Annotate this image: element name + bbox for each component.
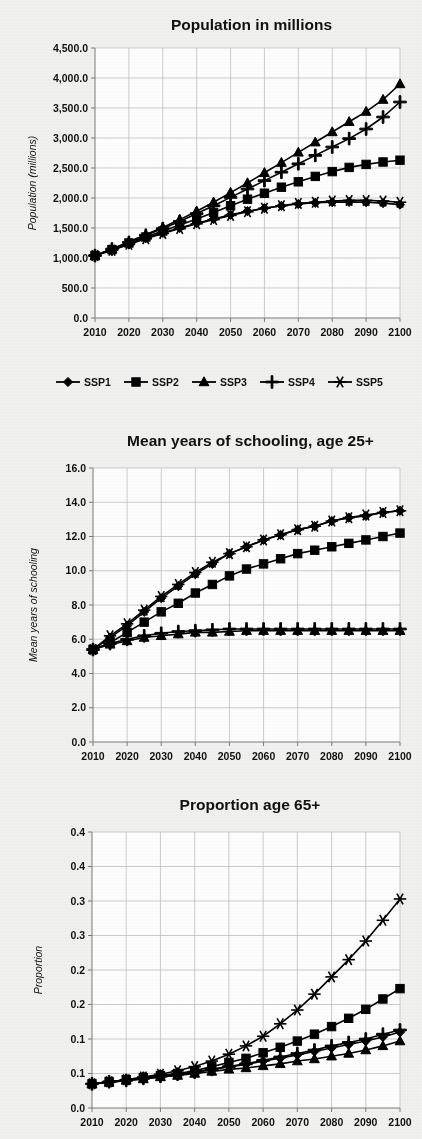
chart-title: Population in millions (171, 16, 332, 33)
x-tick-label: 2070 (286, 1116, 310, 1128)
y-tick-label: 4.0 (71, 667, 86, 679)
y-tick-label: 0.2 (70, 964, 85, 976)
y-tick-label: 8.0 (71, 599, 86, 611)
x-tick-label: 2050 (219, 326, 243, 338)
proportion65-chart-svg: Proportion age 65+0.00.10.10.20.20.30.30… (0, 770, 422, 1139)
x-tick-label: 2020 (115, 750, 139, 762)
y-tick-label: 1,000.0 (53, 252, 88, 264)
y-tick-label: 0.0 (70, 1102, 85, 1114)
y-tick-label: 0.0 (73, 312, 88, 324)
legend-label: SSP3 (220, 376, 247, 388)
y-tick-label: 0.1 (70, 1067, 85, 1079)
shared-legend-svg: SSP1SSP2SSP3SSP4SSP5 (0, 355, 422, 410)
y-tick-label: 3,000.0 (53, 132, 88, 144)
chart-title: Proportion age 65+ (180, 796, 321, 813)
chart-panel-proportion65: Proportion age 65+0.00.10.10.20.20.30.30… (0, 770, 422, 1139)
chart-panel-schooling: Mean years of schooling, age 25+0.02.04.… (0, 410, 422, 770)
x-tick-label: 2070 (286, 750, 310, 762)
x-tick-label: 2090 (354, 1116, 378, 1128)
x-tick-label: 2060 (253, 326, 277, 338)
y-axis-label: Mean years of schooling (27, 548, 39, 662)
y-tick-label: 2,500.0 (53, 162, 88, 174)
x-tick-label: 2080 (320, 1116, 344, 1128)
y-axis-label: Population (millions) (26, 136, 38, 231)
schooling-chart-svg: Mean years of schooling, age 25+0.02.04.… (0, 410, 422, 770)
y-tick-label: 2,000.0 (53, 192, 88, 204)
y-tick-label: 16.0 (66, 462, 87, 474)
legend-item-ssp3[interactable]: SSP3 (192, 376, 247, 388)
x-tick-label: 2080 (321, 326, 345, 338)
legend-label: SSP1 (84, 376, 111, 388)
x-tick-label: 2030 (150, 750, 174, 762)
x-tick-label: 2020 (115, 1116, 139, 1128)
x-tick-label: 2100 (388, 326, 412, 338)
y-tick-label: 10.0 (66, 564, 87, 576)
y-tick-label: 6.0 (71, 633, 86, 645)
legend-label: SSP2 (152, 376, 179, 388)
x-tick-label: 2040 (183, 1116, 207, 1128)
x-tick-label: 2060 (251, 1116, 275, 1128)
y-tick-label: 12.0 (66, 530, 87, 542)
y-tick-label: 1,500.0 (53, 222, 88, 234)
x-tick-label: 2030 (151, 326, 175, 338)
y-tick-label: 0.0 (71, 736, 86, 748)
y-tick-label: 0.2 (70, 998, 85, 1010)
y-tick-label: 4,000.0 (53, 72, 88, 84)
x-tick-label: 2080 (320, 750, 344, 762)
x-tick-label: 2040 (185, 326, 209, 338)
x-tick-label: 2100 (388, 750, 412, 762)
y-tick-label: 0.3 (70, 895, 85, 907)
y-tick-label: 4,500.0 (53, 42, 88, 54)
chart-title: Mean years of schooling, age 25+ (127, 432, 374, 449)
x-tick-label: 2010 (83, 326, 107, 338)
x-tick-label: 2100 (388, 1116, 412, 1128)
x-tick-label: 2090 (354, 750, 378, 762)
x-tick-label: 2090 (354, 326, 378, 338)
y-axis-label: Proportion (32, 946, 44, 995)
legend-item-ssp2[interactable]: SSP2 (124, 376, 179, 388)
x-tick-label: 2010 (80, 1116, 104, 1128)
y-tick-label: 0.1 (70, 1033, 85, 1045)
legend-item-ssp5[interactable]: SSP5 (328, 376, 383, 388)
x-tick-label: 2030 (149, 1116, 173, 1128)
x-tick-label: 2020 (117, 326, 141, 338)
y-tick-label: 2.0 (71, 701, 86, 713)
x-tick-label: 2050 (217, 1116, 241, 1128)
x-tick-label: 2070 (287, 326, 311, 338)
legend-item-ssp1[interactable]: SSP1 (56, 376, 111, 388)
legend-label: SSP5 (356, 376, 383, 388)
y-tick-label: 14.0 (66, 496, 87, 508)
y-tick-label: 0.4 (70, 860, 85, 872)
x-tick-label: 2010 (81, 750, 105, 762)
y-tick-label: 0.3 (70, 929, 85, 941)
x-tick-label: 2060 (252, 750, 276, 762)
legend-label: SSP4 (288, 376, 315, 388)
x-tick-label: 2040 (184, 750, 208, 762)
chart-panel-population: Population in millions0.0500.01,000.01,5… (0, 0, 422, 355)
x-tick-label: 2050 (218, 750, 242, 762)
legend-item-ssp4[interactable]: SSP4 (260, 376, 315, 389)
y-tick-label: 500.0 (62, 282, 88, 294)
population-chart-svg: Population in millions0.0500.01,000.01,5… (0, 0, 422, 355)
y-tick-label: 0.4 (70, 826, 85, 838)
y-tick-label: 3,500.0 (53, 102, 88, 114)
legend-panel: SSP1SSP2SSP3SSP4SSP5 (0, 355, 422, 410)
